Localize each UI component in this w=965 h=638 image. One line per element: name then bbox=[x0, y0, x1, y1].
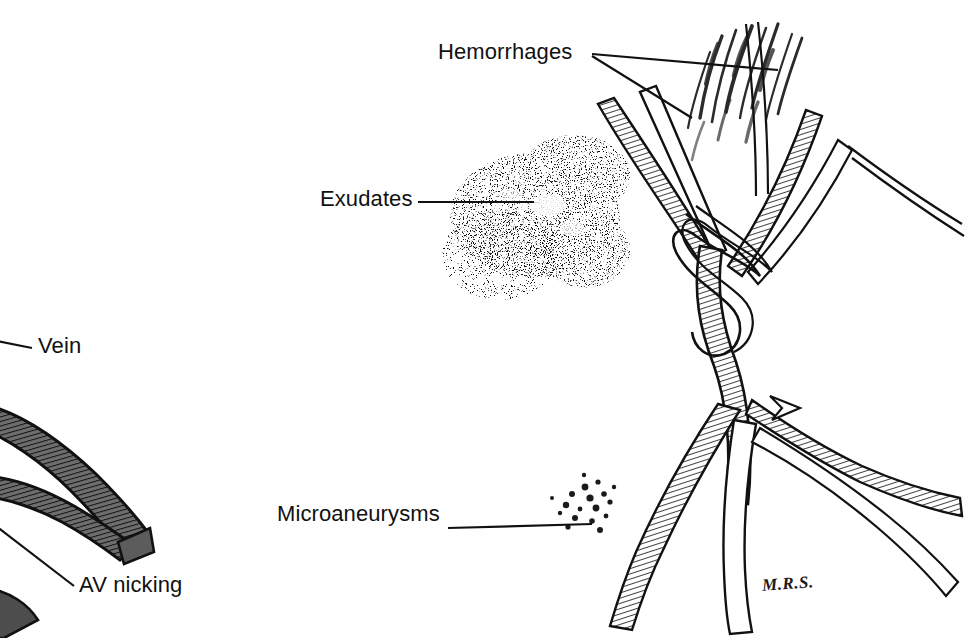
label-vein: Vein bbox=[38, 335, 81, 357]
retinal-fundus-illustration bbox=[0, 0, 965, 638]
label-microaneurysms: Microaneurysms bbox=[277, 503, 440, 525]
label-hemorrhages: Hemorrhages bbox=[438, 41, 572, 63]
artist-signature: M.R.S. bbox=[761, 572, 814, 596]
fundus-overview-panel bbox=[420, 0, 965, 638]
label-exudates: Exudates bbox=[320, 188, 413, 210]
label-av-nicking: AV nicking bbox=[79, 574, 182, 596]
